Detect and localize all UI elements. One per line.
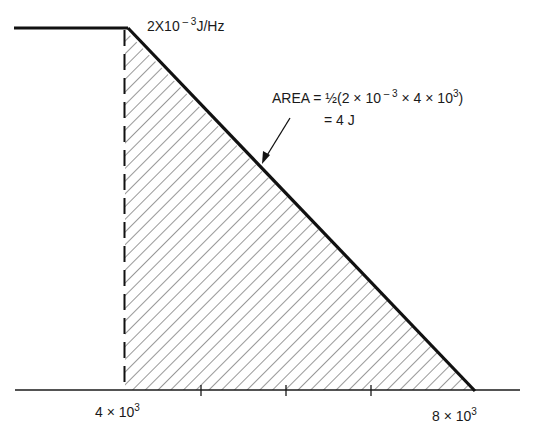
area-label-line2: = 4 J <box>324 113 355 127</box>
x-label-4e3-exp: 3 <box>134 402 140 413</box>
arrow-line <box>266 118 290 157</box>
x-label-4e3: 4 × 103 <box>95 405 140 419</box>
area-exp1: – 3 <box>381 88 398 99</box>
area-suffix: ) <box>459 90 464 106</box>
peak-label-unit: J/Hz <box>196 18 224 34</box>
area-mid: × 4 × 10 <box>398 90 453 106</box>
peak-label-exp: – 3 <box>180 16 197 27</box>
peak-label-base: 2X10 <box>147 18 180 34</box>
x-label-8e3: 8 × 103 <box>432 409 477 423</box>
peak-label: 2X10 – 3J/Hz <box>147 19 224 33</box>
diagram-canvas <box>0 0 545 437</box>
area-prefix: AREA = ½(2 × 10 <box>272 90 381 106</box>
area-label-line1: AREA = ½(2 × 10 – 3 × 4 × 103) <box>272 91 463 105</box>
x-label-8e3-base: 8 × 10 <box>432 408 471 424</box>
x-label-8e3-exp: 3 <box>471 406 477 417</box>
x-label-4e3-base: 4 × 10 <box>95 404 134 420</box>
